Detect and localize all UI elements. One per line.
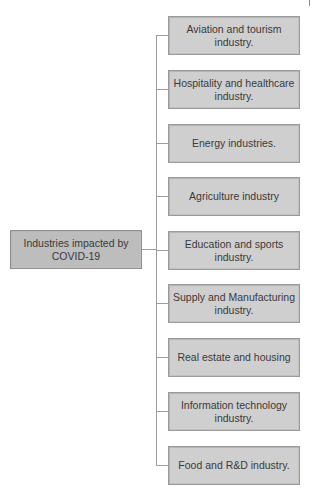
branch-connector (156, 303, 168, 304)
node-label: Energy industries. (192, 137, 276, 150)
node-label: Information technology industry. (173, 399, 295, 425)
node-hospitality-healthcare: Hospitality and healthcare industry. (168, 70, 300, 109)
branch-connector (156, 89, 168, 90)
branch-connector (156, 250, 168, 251)
root-node: Industries impacted by COVID-19 (10, 230, 142, 269)
node-label: Agriculture industry (189, 190, 279, 203)
node-label: Aviation and tourism industry. (173, 23, 295, 49)
node-supply-manufacturing: Supply and Manufacturing industry. (168, 284, 300, 323)
node-label: Real estate and housing (177, 351, 290, 364)
node-information-technology: Information technology industry. (168, 392, 300, 431)
node-label: Education and sports industry. (173, 238, 295, 264)
root-node-label: Industries impacted by COVID-19 (15, 237, 137, 263)
node-energy: Energy industries. (168, 124, 300, 163)
node-real-estate-housing: Real estate and housing (168, 338, 300, 377)
node-label: Hospitality and healthcare industry. (173, 77, 295, 103)
node-food-rd: Food and R&D industry. (168, 446, 300, 485)
root-connector (142, 249, 157, 250)
branch-connector (156, 143, 168, 144)
branch-connector (156, 465, 168, 466)
node-aviation-tourism: Aviation and tourism industry. (168, 16, 300, 55)
node-agriculture: Agriculture industry (168, 177, 300, 216)
branch-connector (156, 196, 168, 197)
node-label: Food and R&D industry. (178, 459, 289, 472)
branch-connector (156, 35, 168, 36)
branch-connector (156, 411, 168, 412)
page-corner-mark (309, 0, 310, 6)
node-label: Supply and Manufacturing industry. (173, 291, 295, 317)
node-education-sports: Education and sports industry. (168, 231, 300, 270)
branch-connector (156, 357, 168, 358)
